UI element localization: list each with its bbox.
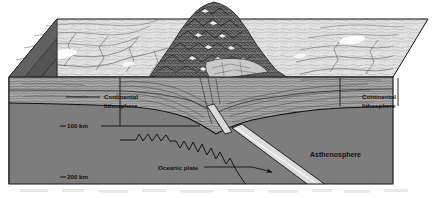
block-diagram-figure: Continental lithosphere Continental lith… [0,0,437,198]
geology-block-diagram: Continental lithosphere Continental lith… [0,0,437,198]
label-asthenosphere: Asthenosphere [310,151,361,159]
label-continental-lithosphere-right-line1: Continental [362,93,396,100]
scan-artifact-row [20,189,408,193]
top-surface [9,2,428,82]
label-depth-100: 100 km [67,122,88,129]
label-continental-lithosphere-right-line2: lithosphere [362,102,396,109]
label-depth-200: 200 km [67,173,88,180]
label-continental-lithosphere-left-line2: lithosphere [104,102,138,109]
label-oceanic-plate: Oceanic plate [158,164,199,171]
label-continental-lithosphere-left-line1: Continental [104,93,138,100]
